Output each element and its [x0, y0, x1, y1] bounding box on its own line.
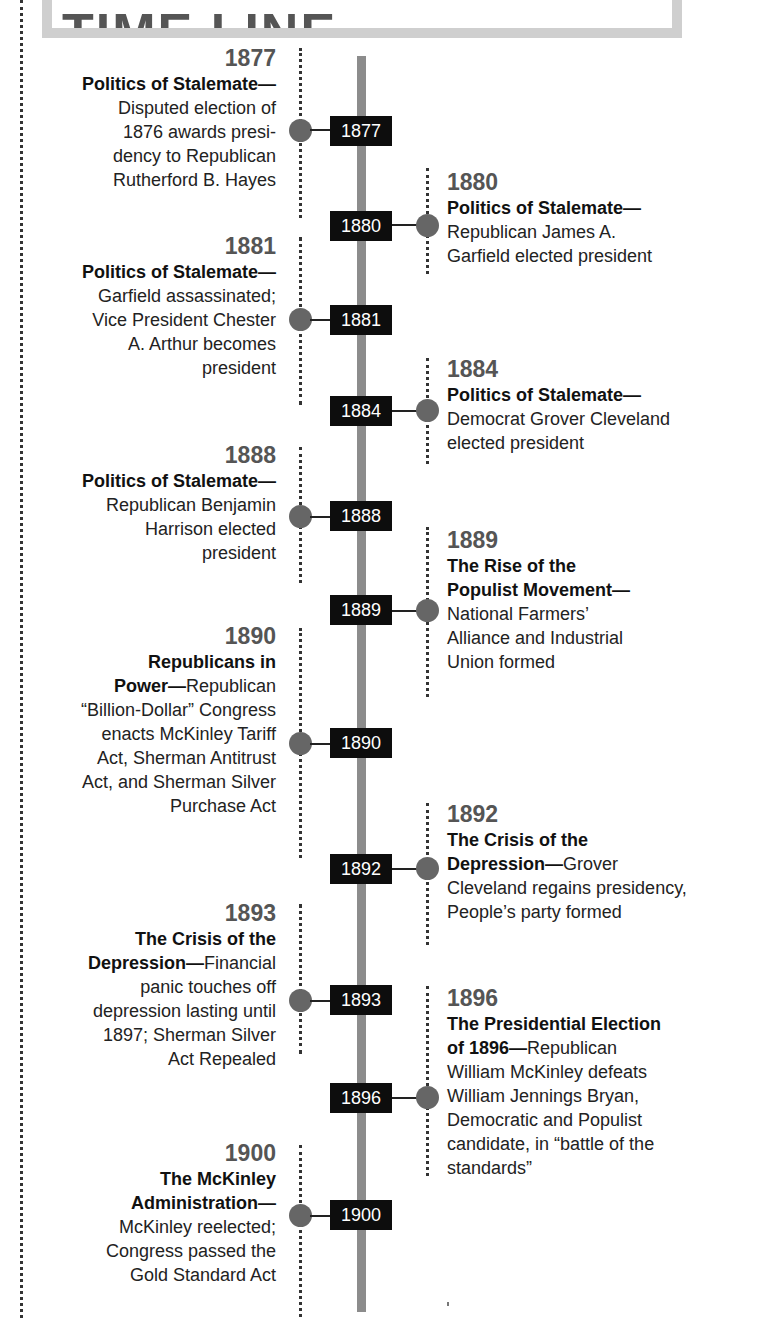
event-year: 1880	[447, 168, 652, 196]
year-marker-1884: 1884	[330, 396, 392, 426]
event-text-line: 1897; Sherman Silver	[88, 1023, 276, 1047]
event-text-line: president	[82, 541, 276, 565]
connector-line	[392, 610, 418, 612]
timeline-dot-icon	[416, 599, 439, 622]
event-text-line: Harrison elected	[82, 517, 276, 541]
event-text-line: Cleveland regains presidency,	[447, 876, 687, 900]
timeline-dot-icon	[289, 505, 312, 528]
timeline-dot-icon	[416, 214, 439, 237]
event-text-line: People’s party formed	[447, 900, 687, 924]
event-text-line: Democratic and Populist	[447, 1108, 661, 1132]
event-title: Politics of Stalemate—	[447, 383, 670, 407]
timeline-dot-icon	[416, 399, 439, 422]
event-text-line: Disputed election of	[82, 96, 276, 120]
event-text-line: Purchase Act	[81, 794, 276, 818]
year-marker-1893: 1893	[330, 985, 392, 1015]
event-year: 1893	[88, 899, 276, 927]
event-title: The McKinley	[106, 1167, 276, 1191]
event-1877: 1877 Politics of Stalemate— Disputed ele…	[82, 44, 276, 192]
event-text-line: McKinley reelected;	[106, 1215, 276, 1239]
timeline-bar	[357, 56, 366, 1312]
event-year: 1881	[82, 232, 276, 260]
event-title: Populist Movement—	[447, 578, 630, 602]
timeline-dot-icon	[289, 732, 312, 755]
timeline-dot-icon	[289, 119, 312, 142]
event-1892: 1892 The Crisis of the Depression—Grover…	[447, 800, 687, 924]
event-title: Politics of Stalemate—	[82, 469, 276, 493]
event-text-line: Act Repealed	[88, 1047, 276, 1071]
event-title: Republicans in	[81, 650, 276, 674]
event-1884: 1884 Politics of Stalemate— Democrat Gro…	[447, 355, 670, 455]
connector-line	[392, 868, 418, 870]
event-text-line: Rutherford B. Hayes	[82, 168, 276, 192]
header-box: TIME LINE	[42, 0, 682, 38]
event-text-line: standards”	[447, 1156, 661, 1180]
event-text-line: 1876 awards presi-	[82, 120, 276, 144]
timeline-dot-icon	[416, 1086, 439, 1109]
event-text-line: William Jennings Bryan,	[447, 1084, 661, 1108]
header-title: TIME LINE	[62, 2, 337, 38]
event-title: The Crisis of the	[88, 927, 276, 951]
event-1893: 1893 The Crisis of the Depression—Financ…	[88, 899, 276, 1071]
event-title: Politics of Stalemate—	[82, 72, 276, 96]
event-text-line: Alliance and Industrial	[447, 626, 630, 650]
event-text-line: dency to Republican	[82, 144, 276, 168]
year-marker-1890: 1890	[330, 728, 392, 758]
connector-line	[310, 1000, 330, 1002]
event-text-line: Democrat Grover Cleveland	[447, 407, 670, 431]
connector-line	[392, 410, 418, 412]
year-marker-1892: 1892	[330, 854, 392, 884]
timeline-dot-icon	[289, 1204, 312, 1227]
year-marker-1889: 1889	[330, 595, 392, 625]
event-text-line: Act, Sherman Antitrust	[81, 746, 276, 770]
page-edge-dotted-border	[20, 0, 23, 1318]
event-text-line: Republican James A.	[447, 220, 652, 244]
year-marker-1888: 1888	[330, 501, 392, 531]
year-marker-1900: 1900	[330, 1200, 392, 1230]
event-title: The Presidential Election	[447, 1012, 661, 1036]
event-1889: 1889 The Rise of the Populist Movement— …	[447, 526, 630, 674]
event-text-line: Garfield elected president	[447, 244, 652, 268]
event-title: Depression—	[88, 953, 204, 973]
event-text-inline: Republican	[186, 676, 276, 696]
connector-line	[310, 516, 330, 518]
event-1896: 1896 The Presidential Election of 1896—R…	[447, 984, 661, 1180]
event-title: Depression—	[447, 854, 563, 874]
event-text-line: Gold Standard Act	[106, 1263, 276, 1287]
event-1888: 1888 Politics of Stalemate— Republican B…	[82, 441, 276, 565]
event-1890: 1890 Republicans in Power—Republican “Bi…	[81, 622, 276, 818]
connector-line	[310, 743, 330, 745]
event-text-line: William McKinley defeats	[447, 1060, 661, 1084]
event-year: 1890	[81, 622, 276, 650]
event-year: 1900	[106, 1139, 276, 1167]
stray-ink-mark	[447, 1302, 449, 1306]
event-year: 1892	[447, 800, 687, 828]
separator-dotted	[299, 904, 302, 1054]
event-year: 1888	[82, 441, 276, 469]
event-text-line: Garfield assassinated;	[82, 284, 276, 308]
event-text-line: Union formed	[447, 650, 630, 674]
connector-line	[310, 319, 330, 321]
event-year: 1877	[82, 44, 276, 72]
event-year: 1889	[447, 526, 630, 554]
event-text-line: Vice President Chester	[82, 308, 276, 332]
timeline-dot-icon	[289, 308, 312, 331]
event-title: of 1896—	[447, 1038, 527, 1058]
event-title: Politics of Stalemate—	[447, 196, 652, 220]
timeline-dot-icon	[289, 989, 312, 1012]
year-marker-1877: 1877	[330, 116, 392, 146]
connector-line	[392, 1097, 418, 1099]
event-title: Power—	[114, 676, 186, 696]
event-1900: 1900 The McKinley Administration— McKinl…	[106, 1139, 276, 1287]
separator-dotted	[426, 986, 429, 1176]
event-title: Politics of Stalemate—	[82, 260, 276, 284]
event-year: 1896	[447, 984, 661, 1012]
event-text-line: A. Arthur becomes	[82, 332, 276, 356]
year-marker-1896: 1896	[330, 1083, 392, 1113]
event-text-line: “Billion-Dollar” Congress	[81, 698, 276, 722]
event-text-line: panic touches off	[88, 975, 276, 999]
event-text-line: president	[82, 356, 276, 380]
connector-line	[392, 224, 418, 226]
connector-line	[310, 129, 330, 131]
event-1881: 1881 Politics of Stalemate— Garfield ass…	[82, 232, 276, 380]
